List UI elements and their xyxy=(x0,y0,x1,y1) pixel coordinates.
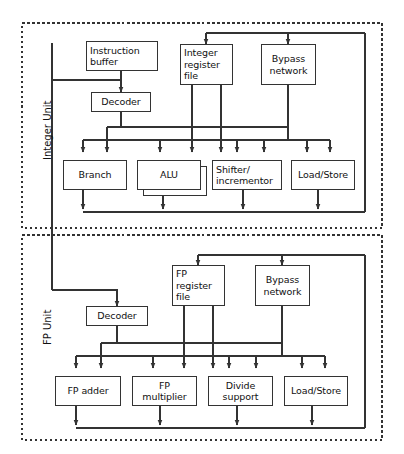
left-rail-to-fp-decoder xyxy=(52,290,117,306)
branch-unit-box[interactable]: Branch xyxy=(63,160,127,190)
shifter-incrementor-box[interactable]: Shifter/ incrementor xyxy=(212,160,282,190)
divide-support-box[interactable]: Divide support xyxy=(208,376,273,406)
fp-multiplier-box[interactable]: FP multiplier xyxy=(132,376,197,406)
fp-load-store-box[interactable]: Load/Store xyxy=(284,376,348,406)
integer-decoder-box[interactable]: Decoder xyxy=(91,92,151,112)
fp-decoder-box[interactable]: Decoder xyxy=(86,306,148,326)
integer-unit-label: Integer Unit xyxy=(42,100,53,160)
integer-bypass-network-box[interactable]: Bypass network xyxy=(261,44,316,85)
fp-register-file-box[interactable]: FP register file xyxy=(172,265,225,306)
diagram-canvas: Integer Unit FP Unit Instruction buffer … xyxy=(0,0,404,454)
fp-bypass-network-box[interactable]: Bypass network xyxy=(255,265,310,306)
instruction-buffer-box[interactable]: Instruction buffer xyxy=(86,41,158,71)
integer-register-file-box[interactable]: Integer register file xyxy=(180,44,233,85)
fp-unit-label: FP Unit xyxy=(42,310,53,345)
fp-adder-box[interactable]: FP adder xyxy=(55,376,121,406)
integer-load-store-box[interactable]: Load/Store xyxy=(291,160,355,190)
alu-box[interactable]: ALU xyxy=(137,160,201,190)
